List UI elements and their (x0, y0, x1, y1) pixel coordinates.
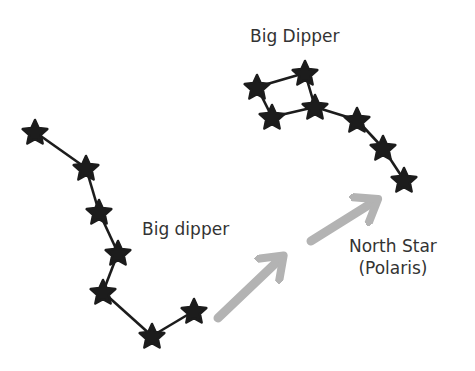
star-icon (106, 241, 131, 265)
star-icon (392, 168, 417, 192)
north-star-label-line2: (Polaris) (349, 258, 437, 278)
star-icon (23, 120, 48, 144)
star-icon (303, 95, 328, 119)
north-star-label-line1: North Star (349, 236, 437, 256)
star-icon (293, 61, 318, 85)
pointer-arrow-icon (218, 258, 281, 318)
constellation-lines (35, 73, 404, 336)
big-dipper-top-label: Big Dipper (250, 26, 339, 46)
big-dipper-left-label: Big dipper (142, 219, 229, 239)
star-icon (74, 156, 99, 180)
north-star-label: North Star (Polaris) (349, 236, 437, 278)
star-diagram (0, 0, 475, 371)
star-icon (87, 200, 112, 224)
constellation-stars (23, 61, 417, 348)
pointer-arrow-icon (311, 201, 375, 241)
star-icon (182, 299, 207, 323)
star-icon (245, 75, 270, 99)
star-icon (260, 105, 285, 129)
